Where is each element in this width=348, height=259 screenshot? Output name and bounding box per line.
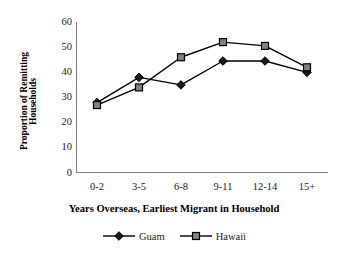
chart-legend: GuamHawaii bbox=[0, 230, 348, 242]
data-series-group bbox=[93, 39, 312, 109]
chart-container: Proportion of Remitting Households 01020… bbox=[0, 0, 348, 259]
x-axis-title: Years Overseas, Earliest Migrant in Hous… bbox=[0, 203, 348, 214]
x-axis-tick-label: 6-8 bbox=[158, 182, 204, 193]
series-line-guam bbox=[97, 61, 307, 103]
marker-hawaii bbox=[94, 102, 101, 109]
y-axis-tick-label: 20 bbox=[44, 117, 72, 128]
marker-hawaii bbox=[220, 39, 227, 46]
marker-hawaii bbox=[136, 84, 143, 91]
marker-hawaii bbox=[262, 42, 269, 49]
marker-guam bbox=[177, 81, 186, 90]
marker-hawaii bbox=[304, 64, 311, 71]
x-axis-tick-label: 15+ bbox=[284, 182, 330, 193]
legend-marker-square-icon bbox=[179, 230, 213, 242]
marker-guam bbox=[261, 57, 270, 66]
plot-area bbox=[76, 22, 328, 173]
x-axis-tick-label: 3-5 bbox=[116, 182, 162, 193]
legend-item-guam: Guam bbox=[102, 230, 165, 242]
legend-marker-diamond-icon bbox=[102, 230, 136, 242]
y-axis-tick-label: 0 bbox=[44, 168, 72, 179]
legend-marker bbox=[115, 232, 124, 241]
marker-guam bbox=[219, 57, 228, 66]
y-axis-title-line-2: Households bbox=[29, 78, 39, 125]
y-axis-tick-labels: 0102030405060 bbox=[44, 0, 72, 259]
y-axis-tick-label: 60 bbox=[44, 17, 72, 28]
legend-item-hawaii: Hawaii bbox=[179, 230, 246, 242]
y-axis-tick-label: 50 bbox=[44, 42, 72, 53]
x-axis-tick-label: 9-11 bbox=[200, 182, 246, 193]
marker-hawaii bbox=[178, 54, 185, 61]
y-axis-tick-label: 40 bbox=[44, 67, 72, 78]
x-axis-tick-label: 0-2 bbox=[74, 182, 120, 193]
legend-label: Guam bbox=[139, 231, 165, 242]
legend-label: Hawaii bbox=[216, 231, 246, 242]
x-axis-tick-labels: 0-23-56-89-1112-1415+ bbox=[76, 182, 328, 198]
legend-marker bbox=[192, 233, 199, 240]
y-axis-tick-label: 10 bbox=[44, 142, 72, 153]
chart-svg bbox=[76, 22, 328, 173]
x-axis-tick-label: 12-14 bbox=[242, 182, 288, 193]
y-axis-tick-label: 30 bbox=[44, 92, 72, 103]
marker-guam bbox=[135, 73, 144, 82]
